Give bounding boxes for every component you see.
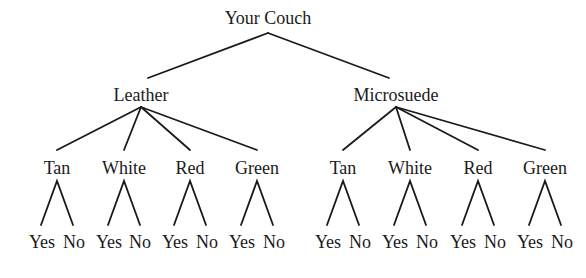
tree-diagram: Your Couch Leather Microsuede Tan White … — [0, 0, 586, 278]
leaf-microsuede-red-no: No — [484, 232, 506, 252]
color-node-leather-red: Red — [176, 158, 205, 178]
edges-microsuede-red-yes-no — [462, 181, 494, 225]
leaf-leather-red-no: No — [196, 232, 218, 252]
leaf-microsuede-green-no: No — [551, 232, 573, 252]
material-node-microsuede: Microsuede — [354, 85, 439, 105]
root-node-label: Your Couch — [225, 8, 312, 28]
edges-microsuede-green-yes-no — [529, 181, 561, 225]
leaf-microsuede-green-yes: Yes — [517, 232, 543, 252]
leaf-microsuede-tan-no: No — [349, 232, 371, 252]
edges-microsuede-tan-yes-no — [327, 181, 359, 225]
color-node-microsuede-tan: Tan — [330, 158, 357, 178]
edges-leather-green-yes-no — [241, 181, 273, 225]
edges-microsuede-white-yes-no — [394, 181, 426, 225]
color-node-microsuede-red: Red — [464, 158, 493, 178]
leaf-leather-red-yes: Yes — [162, 232, 188, 252]
edge-leather-green — [141, 107, 257, 150]
edge-microsuede-tan — [343, 107, 396, 150]
leaf-microsuede-red-yes: Yes — [450, 232, 476, 252]
leaf-leather-tan-yes: Yes — [29, 232, 55, 252]
leaf-leather-green-yes: Yes — [229, 232, 255, 252]
edges-leather-red-yes-no — [174, 181, 206, 225]
color-node-leather-white: White — [102, 158, 146, 178]
edge-leather-tan — [57, 107, 141, 150]
leaf-microsuede-white-yes: Yes — [382, 232, 408, 252]
edge-leather-red — [141, 107, 190, 150]
edge-root-leather — [148, 33, 268, 78]
edge-root-microsuede — [268, 33, 389, 78]
edges-leather-tan-yes-no — [41, 181, 73, 225]
leaf-microsuede-white-no: No — [416, 232, 438, 252]
material-node-leather: Leather — [114, 85, 169, 105]
leaf-leather-white-no: No — [129, 232, 151, 252]
leaf-leather-white-yes: Yes — [96, 232, 122, 252]
edge-microsuede-green — [396, 107, 545, 150]
color-node-microsuede-green: Green — [523, 158, 567, 178]
leaf-leather-tan-no: No — [63, 232, 85, 252]
color-node-leather-green: Green — [235, 158, 279, 178]
leaf-microsuede-tan-yes: Yes — [315, 232, 341, 252]
leaf-leather-green-no: No — [263, 232, 285, 252]
color-node-microsuede-white: White — [388, 158, 432, 178]
color-node-leather-tan: Tan — [44, 158, 71, 178]
edges-leather-white-yes-no — [108, 181, 140, 225]
